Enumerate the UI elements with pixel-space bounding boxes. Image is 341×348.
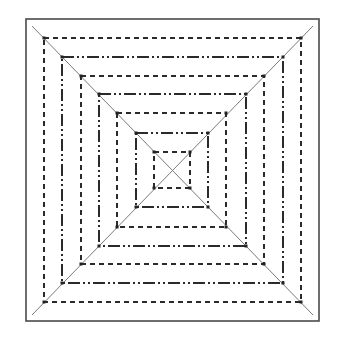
concentric-squares-diagram — [0, 0, 341, 348]
corner-marker — [153, 187, 156, 190]
corner-marker — [207, 132, 210, 135]
corner-marker — [245, 93, 248, 96]
corner-marker — [98, 245, 101, 248]
corner-marker — [43, 37, 46, 40]
corner-marker — [153, 151, 156, 154]
corner-marker — [245, 245, 248, 248]
corner-marker — [116, 112, 119, 115]
corner-marker — [263, 75, 266, 78]
corner-marker — [80, 263, 83, 266]
corner-marker — [98, 93, 101, 96]
corner-marker — [207, 206, 210, 209]
diagram-canvas — [0, 0, 341, 348]
corner-marker — [225, 112, 228, 115]
corner-marker — [43, 301, 46, 304]
corner-marker — [189, 187, 192, 190]
diagonals — [32, 26, 313, 315]
corner-marker — [135, 206, 138, 209]
corner-marker — [80, 75, 83, 78]
corner-marker — [189, 151, 192, 154]
corner-marker — [263, 263, 266, 266]
corner-marker — [225, 226, 228, 229]
corner-marker — [300, 301, 303, 304]
corner-marker — [61, 56, 64, 59]
corner-marker — [282, 282, 285, 285]
corner-marker — [300, 37, 303, 40]
corner-marker — [282, 56, 285, 59]
corner-marker — [61, 282, 64, 285]
corner-marker — [116, 226, 119, 229]
corner-marker — [135, 132, 138, 135]
